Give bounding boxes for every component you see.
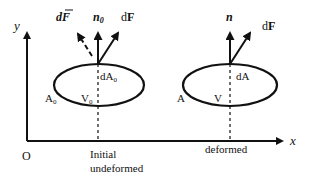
initial-caption-line1: Initial: [90, 148, 116, 160]
pseudo-force-label: dF: [56, 10, 70, 24]
initial-body: dF n0 dF dA0 V0 A0 Initial undeformed: [45, 10, 144, 174]
normal-n0-label: n0: [93, 10, 104, 25]
volume-V0-label: V0: [81, 92, 93, 106]
area-A0-label: A0: [45, 92, 57, 106]
y-axis-label: y: [12, 18, 20, 33]
initial-caption-line2: undeformed: [90, 162, 144, 174]
element-dA0-label: dA0: [100, 70, 117, 84]
force-dF-label-initial: dF: [121, 10, 134, 24]
normal-n-label: n: [226, 10, 233, 24]
deformed-body: n dF dA V A deformed: [177, 10, 277, 155]
initial-ellipse: [54, 64, 144, 106]
element-dA-label: dA: [236, 70, 250, 82]
deformed-caption: deformed: [205, 143, 248, 155]
x-axis-label: x: [289, 133, 296, 148]
area-A-label: A: [177, 92, 185, 104]
origin-label: O: [22, 149, 31, 163]
force-dF-arrow-initial: [98, 33, 118, 64]
pseudo-force-dFbar-arrow: [78, 34, 92, 56]
force-dF-label-deformed: dF: [262, 19, 275, 33]
stress-configuration-diagram: y x O dF n0 dF dA0 V0 A0 Initial undefor…: [0, 0, 313, 178]
volume-V-label: V: [214, 92, 222, 104]
force-dF-arrow-deformed: [230, 33, 250, 64]
